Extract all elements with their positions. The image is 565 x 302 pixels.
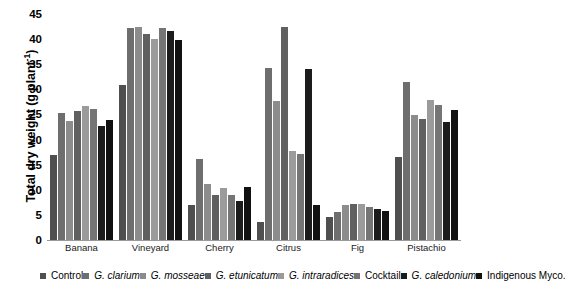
bar <box>90 109 97 240</box>
bar <box>151 39 158 240</box>
bar-group <box>323 14 392 240</box>
legend-swatch-icon <box>83 273 89 279</box>
chart-legend: ControlG. clariumG. mosseaeG. etunicatum… <box>40 268 464 283</box>
bar <box>342 205 349 240</box>
bar <box>220 188 227 240</box>
bar <box>98 126 105 241</box>
bar <box>374 209 381 240</box>
y-axis-tick-label: 30 <box>29 83 42 95</box>
x-axis-category-labels: BananaVineyardCherryCitrusFigPistachio <box>47 242 461 253</box>
bar <box>273 101 280 240</box>
bar <box>119 85 126 240</box>
bar-group <box>185 14 254 240</box>
bar <box>451 110 458 240</box>
x-axis-category-label: Vineyard <box>116 242 185 253</box>
legend-swatch-icon <box>205 273 211 279</box>
bar <box>297 154 304 240</box>
legend-item[interactable]: Control <box>40 268 83 283</box>
bar <box>334 212 341 240</box>
y-axis-tick-label: 5 <box>36 209 42 221</box>
y-axis-tick-label: 25 <box>29 108 42 120</box>
bar-group <box>47 14 116 240</box>
legend-item[interactable]: G. mosseae <box>140 268 205 283</box>
bar <box>443 122 450 240</box>
legend-label: Control <box>51 270 83 281</box>
bar <box>74 111 81 240</box>
bar-group <box>392 14 461 240</box>
legend-swatch-icon <box>40 273 46 279</box>
bar-groups <box>47 14 461 240</box>
legend-label: G. clarium <box>94 270 140 281</box>
legend-item[interactable]: G. etunicatum <box>205 268 278 283</box>
bar <box>127 28 134 240</box>
legend-item[interactable]: G. clarium <box>83 268 140 283</box>
bar <box>244 187 251 240</box>
bar <box>313 205 320 240</box>
bar <box>305 69 312 240</box>
bar <box>366 207 373 240</box>
bar <box>228 195 235 240</box>
bar <box>236 201 243 240</box>
bar <box>143 34 150 240</box>
bar <box>66 121 73 240</box>
legend-swatch-icon <box>278 273 284 279</box>
bar <box>358 204 365 240</box>
legend-label: Cocktail <box>365 270 401 281</box>
bar <box>265 68 272 240</box>
bar <box>135 27 142 240</box>
legend-label: G. intraradices <box>289 270 354 281</box>
legend-swatch-icon <box>401 273 407 279</box>
legend-item[interactable]: Indigenous Myco. <box>476 268 565 283</box>
bar <box>106 120 113 240</box>
legend-swatch-icon <box>354 273 360 279</box>
legend-swatch-icon <box>140 273 146 279</box>
y-axis-tick-label: 15 <box>29 159 42 171</box>
legend-item[interactable]: Cocktail <box>354 268 401 283</box>
bar <box>167 31 174 240</box>
bar <box>58 113 65 240</box>
bar-group <box>254 14 323 240</box>
legend-item[interactable]: G. intraradices <box>278 268 354 283</box>
bar-group <box>116 14 185 240</box>
y-axis-tick-label: 0 <box>36 234 42 246</box>
plot-area: 051015202530354045 <box>47 14 461 240</box>
y-axis-title-tail: ) <box>24 50 38 54</box>
y-axis-tick-label: 10 <box>29 184 42 196</box>
bar <box>395 157 402 240</box>
y-axis-tick-label: 45 <box>29 8 42 20</box>
y-axis-tick-label: 20 <box>29 134 42 146</box>
bar <box>50 155 57 240</box>
x-axis-category-label: Cherry <box>185 242 254 253</box>
bar <box>350 204 357 240</box>
x-axis-category-label: Citrus <box>254 242 323 253</box>
bar <box>82 106 89 240</box>
bar <box>403 82 410 240</box>
legend-label: G. caledonium <box>412 270 476 281</box>
legend-swatch-icon <box>476 273 482 279</box>
bar <box>435 105 442 240</box>
bar <box>289 151 296 240</box>
legend-label: G. mosseae <box>151 270 205 281</box>
bar <box>257 222 264 240</box>
bar <box>281 27 288 240</box>
bar <box>159 28 166 240</box>
bar <box>427 100 434 240</box>
x-axis-line <box>47 240 461 241</box>
bar <box>204 184 211 240</box>
y-axis-tick-label: 35 <box>29 58 42 70</box>
legend-item[interactable]: G. caledonium <box>401 268 476 283</box>
x-axis-category-label: Fig <box>323 242 392 253</box>
legend-label: G. etunicatum <box>216 270 278 281</box>
bar <box>326 217 333 240</box>
y-axis-tick-label: 40 <box>29 33 42 45</box>
bar <box>419 119 426 240</box>
bar <box>175 40 182 240</box>
x-axis-category-label: Banana <box>47 242 116 253</box>
bar <box>196 159 203 240</box>
x-axis-category-label: Pistachio <box>392 242 461 253</box>
bar <box>411 115 418 240</box>
legend-label: Indigenous Myco. <box>487 270 565 281</box>
bar <box>212 195 219 240</box>
bar <box>382 211 389 240</box>
